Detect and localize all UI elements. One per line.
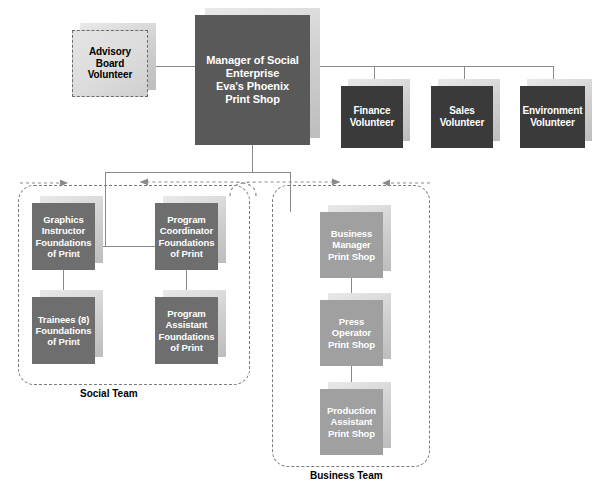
environment-volunteer-label: EnvironmentVolunteer bbox=[519, 105, 585, 129]
program-assistant-label: ProgramAssistantFoundationsof Print bbox=[156, 308, 218, 353]
manager-of-social-enterprise-label: Manager of SocialEnterpriseEva's Phoenix… bbox=[203, 54, 301, 106]
program-coordinator-label: ProgramCoordinatorFoundationsof Print bbox=[156, 214, 218, 259]
business-manager-box[interactable]: BusinessManagerPrint Shop bbox=[320, 212, 383, 278]
sales-volunteer-label: SalesVolunteer bbox=[437, 105, 487, 129]
dashed-arrow-social-left bbox=[18, 178, 78, 192]
advisory-board-volunteer-box[interactable]: AdvisoryBoardVolunteer bbox=[72, 30, 148, 97]
graphics-instructor-box[interactable]: GraphicsInstructorFoundationsof Print bbox=[32, 203, 95, 270]
production-assistant-box[interactable]: ProductionAssistantPrint Shop bbox=[320, 389, 383, 455]
finance-volunteer-label: FinanceVolunteer bbox=[347, 105, 397, 129]
trainees-label: Trainees (8)Foundationsof Print bbox=[33, 314, 95, 348]
press-operator-box[interactable]: PressOperatorPrint Shop bbox=[320, 300, 383, 366]
social-team-label: Social Team bbox=[80, 388, 138, 399]
program-assistant-box[interactable]: ProgramAssistantFoundationsof Print bbox=[155, 297, 218, 364]
manager-of-social-enterprise-box[interactable]: Manager of SocialEnterpriseEva's Phoenix… bbox=[195, 15, 310, 145]
environment-volunteer-box[interactable]: EnvironmentVolunteer bbox=[520, 86, 585, 148]
connector-manager-down bbox=[252, 145, 253, 172]
sales-volunteer-box[interactable]: SalesVolunteer bbox=[431, 86, 493, 148]
business-manager-label: BusinessManagerPrint Shop bbox=[325, 228, 378, 262]
advisory-board-volunteer-label: AdvisoryBoardVolunteer bbox=[85, 46, 135, 81]
graphics-instructor-label: GraphicsInstructorFoundationsof Print bbox=[33, 214, 95, 259]
production-assistant-label: ProductionAssistantPrint Shop bbox=[324, 405, 379, 439]
org-chart-canvas: Social Team Business Team AdvisoryBoardV… bbox=[0, 0, 604, 492]
connector-volunteer-bus bbox=[310, 66, 554, 67]
connector-team-bus bbox=[105, 172, 291, 173]
trainees-box[interactable]: Trainees (8)Foundationsof Print bbox=[32, 297, 95, 364]
dashed-arrow-business bbox=[228, 176, 348, 198]
press-operator-label: PressOperatorPrint Shop bbox=[325, 316, 378, 350]
business-team-label: Business Team bbox=[310, 470, 383, 481]
program-coordinator-box[interactable]: ProgramCoordinatorFoundationsof Print bbox=[155, 203, 218, 270]
finance-volunteer-box[interactable]: FinanceVolunteer bbox=[341, 86, 403, 148]
dashed-arrow-business-right bbox=[372, 178, 434, 192]
